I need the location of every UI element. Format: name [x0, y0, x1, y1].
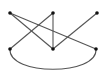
edge-n3-n5	[53, 13, 97, 49]
edge-layer	[10, 13, 97, 69]
node-n1	[8, 11, 12, 15]
node-n4	[8, 47, 12, 51]
node-n3	[95, 11, 99, 15]
node-n2	[51, 11, 55, 15]
edge-n4-n6	[10, 49, 96, 69]
node-n6	[94, 47, 98, 51]
node-n5	[51, 47, 55, 51]
graph-diagram	[0, 0, 111, 78]
